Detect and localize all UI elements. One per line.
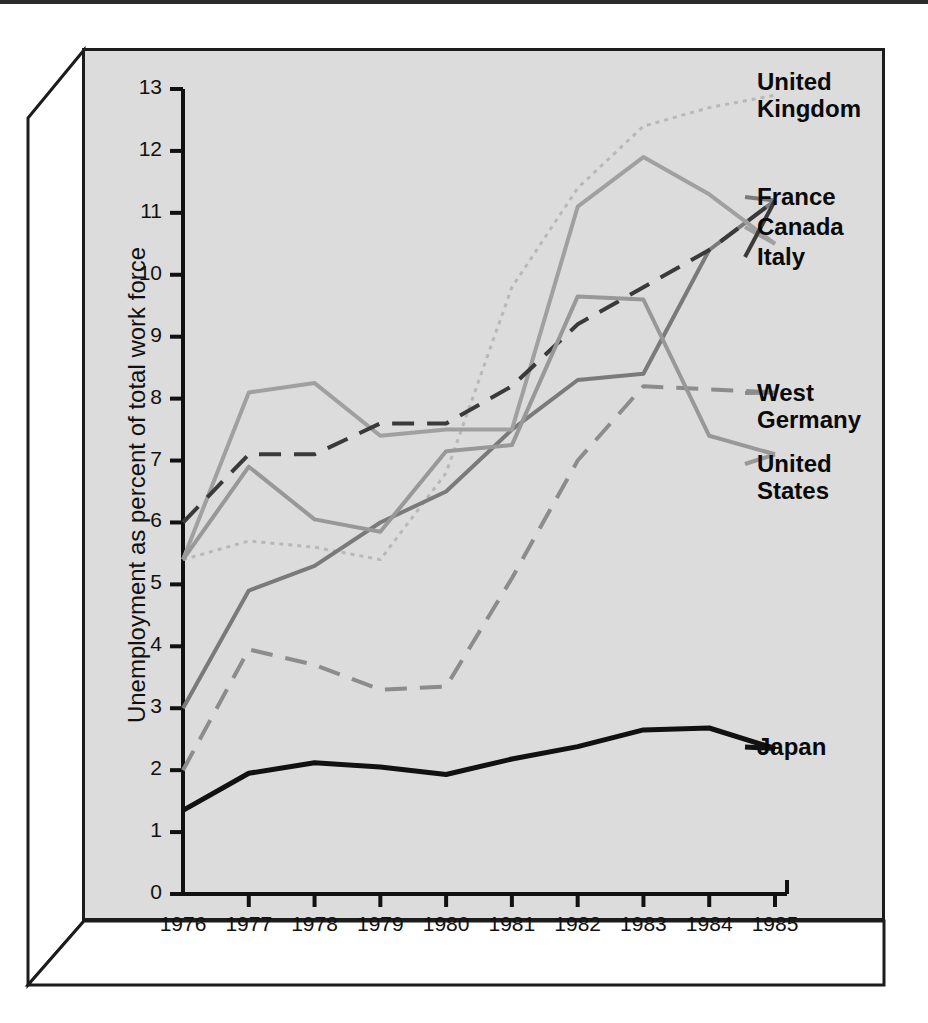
series-label-japan: Japan [757, 734, 826, 761]
series-line-united-kingdom [183, 95, 775, 559]
series-line-canada [183, 157, 775, 559]
y-tick-label: 3 [110, 694, 162, 718]
series-label-united-kingdom: United Kingdom [757, 69, 861, 123]
series-line-japan [183, 728, 775, 810]
chart-screenshot: Unemployment as percent of total work fo… [0, 0, 928, 1023]
y-tick-label: 9 [110, 323, 162, 347]
x-tick-label: 1985 [735, 912, 815, 936]
series-label-canada: Canada [757, 214, 844, 241]
series-label-west-germany: West Germany [757, 380, 861, 434]
y-tick-label: 11 [110, 199, 162, 223]
y-tick-label: 10 [110, 261, 162, 285]
axes [183, 89, 787, 894]
series-line-italy [183, 201, 775, 523]
y-tick-label: 7 [110, 447, 162, 471]
series-line-west-germany [183, 386, 775, 770]
y-tick-label: 8 [110, 385, 162, 409]
y-tick-label: 6 [110, 508, 162, 532]
chart-panel: Unemployment as percent of total work fo… [82, 48, 885, 921]
y-tick-label: 12 [110, 137, 162, 161]
series-label-italy: Italy [757, 244, 805, 271]
y-tick-label: 5 [110, 570, 162, 594]
series-label-united-states: United States [757, 451, 832, 505]
y-tick-label: 13 [110, 75, 162, 99]
series-label-france: France [757, 184, 836, 211]
y-tick-label: 2 [110, 756, 162, 780]
y-tick-label: 0 [110, 880, 162, 904]
y-tick-label: 1 [110, 818, 162, 842]
y-tick-label: 4 [110, 632, 162, 656]
series-lines [183, 95, 775, 810]
